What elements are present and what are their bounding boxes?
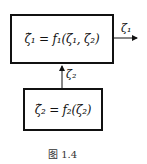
bottom-block-equation: ζ̇₂ = f₂(ζ₂) bbox=[35, 103, 92, 117]
output-signal-label: ζ₁ bbox=[121, 22, 131, 35]
top-block: ζ̇₁ = f₁(ζ₁, ζ₂) bbox=[10, 14, 114, 64]
figure-caption: 图 1.4 bbox=[0, 146, 125, 161]
bottom-block: ζ̇₂ = f₂(ζ₂) bbox=[23, 88, 103, 131]
top-block-equation: ζ̇₁ = f₁(ζ₁, ζ₂) bbox=[25, 32, 100, 46]
connecting-signal-label: ζ₂ bbox=[66, 68, 76, 81]
